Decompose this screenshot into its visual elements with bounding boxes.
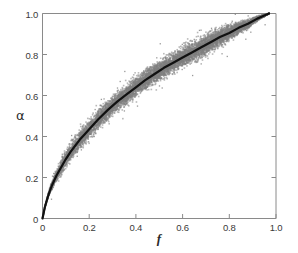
y-tick-label: 0.8: [8, 49, 38, 60]
x-axis-ticks: [43, 214, 277, 219]
plot-canvas: [0, 0, 298, 253]
y-tick-label: 0: [8, 213, 38, 224]
plot-frame: [43, 14, 277, 219]
y-axis-title: α: [16, 108, 25, 123]
x-tick-label: 0.8: [223, 222, 236, 233]
x-axis-title: f: [157, 231, 161, 247]
x-tick-label: 0: [40, 222, 45, 233]
x-tick-label: 0.6: [176, 222, 189, 233]
y-tick-label: 0.2: [8, 172, 38, 183]
y-tick-label: 0.6: [8, 90, 38, 101]
y-tick-label: 0.4: [8, 131, 38, 142]
x-tick-label: 0.4: [130, 222, 143, 233]
chart-figure: 00.20.40.60.81.0 00.20.40.60.81.0 α f: [0, 0, 298, 253]
y-tick-label: 1.0: [8, 8, 38, 19]
x-tick-label: 0.2: [83, 222, 96, 233]
x-tick-label: 1.0: [270, 222, 283, 233]
y-axis-ticks: [43, 14, 277, 219]
fitted-curve-line: [43, 14, 270, 219]
scatter-points: [42, 13, 270, 220]
